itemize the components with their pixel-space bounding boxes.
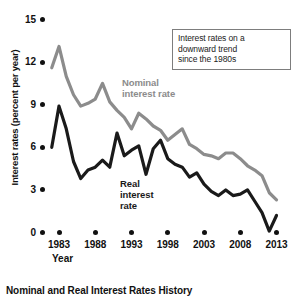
series-label-nominal: Nominal interest rate [122, 77, 175, 99]
series-label-real-line2: interest [120, 189, 154, 200]
series-line-real [52, 106, 277, 231]
chart-container: Interest rates (percent per year) 036912… [0, 0, 298, 306]
series-label-real-line3: rate [120, 200, 154, 211]
annotation-line1: Interest rates on a [178, 33, 286, 44]
series-label-real-line1: Real [120, 178, 154, 189]
annotation-line2: downward trend [178, 44, 286, 55]
x-axis-title: Year [52, 253, 73, 264]
series-label-nominal-line2: interest rate [122, 88, 175, 99]
annotation-box: Interest rates on a downward trend since… [172, 29, 291, 70]
figure-caption: Nominal and Real Interest Rates History [6, 285, 192, 296]
series-label-real: Real interest rate [120, 178, 154, 211]
annotation-line3: since the 1980s [178, 54, 286, 65]
series-label-nominal-line1: Nominal [122, 77, 175, 88]
